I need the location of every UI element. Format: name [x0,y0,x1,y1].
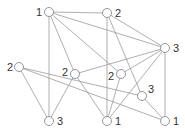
graph-node [103,9,112,18]
node-label: 2 [62,66,68,78]
edge-G-J [142,96,165,121]
node-label: 3 [57,115,63,127]
graph-node [103,117,112,126]
graph-node [45,117,54,126]
edge-A-B [49,12,107,13]
node-label: 1 [115,115,121,127]
graph-node [45,8,54,17]
graph-node [15,63,24,72]
node-label: 3 [173,42,179,54]
graph-node [161,117,170,126]
node-label: 1 [173,115,179,127]
node-label: 1 [36,6,42,18]
edge-D-H [19,67,49,121]
node-label: 2 [115,7,121,19]
graph-node [161,44,170,53]
graph-node [138,92,147,101]
graph-diagram: 1232223311 [0,0,185,134]
edge-A-E [49,12,75,74]
edge-E-H [49,74,75,121]
graph-node [71,70,80,79]
node-label: 2 [108,70,114,82]
graph-node [117,70,126,79]
node-label: 2 [7,61,13,73]
node-label: 3 [148,83,154,95]
graph-edges [19,12,165,121]
